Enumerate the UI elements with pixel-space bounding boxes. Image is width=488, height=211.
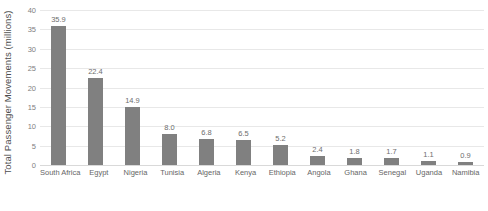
y-axis-tick-label: 20 bbox=[28, 83, 36, 92]
y-axis-title: Total Passenger Movements (millions) bbox=[0, 0, 14, 185]
y-axis-tick-label: 25 bbox=[28, 64, 36, 73]
x-axis-category-label: Egypt bbox=[80, 168, 117, 190]
bar-value-label: 1.7 bbox=[373, 147, 410, 156]
bar-slot: 8.0 bbox=[151, 10, 188, 165]
bar-value-label: 6.5 bbox=[225, 129, 262, 138]
bar[interactable] bbox=[458, 162, 474, 165]
y-axis-tick-label: 35 bbox=[28, 25, 36, 34]
bar-value-label: 1.1 bbox=[410, 150, 447, 159]
x-axis-category-label: Tunisia bbox=[154, 168, 191, 190]
bar-slot: 0.9 bbox=[447, 10, 484, 165]
x-axis-category-label: South Africa bbox=[40, 168, 80, 190]
x-axis-category-label: Angola bbox=[301, 168, 338, 190]
bar[interactable] bbox=[421, 161, 437, 165]
bar-slot: 2.4 bbox=[299, 10, 336, 165]
bar[interactable] bbox=[236, 140, 252, 165]
bar-slot: 1.8 bbox=[336, 10, 373, 165]
y-axis-tick-labels: 0510152025303540 bbox=[16, 10, 38, 165]
bar-value-label: 35.9 bbox=[40, 15, 77, 24]
bar-value-label: 5.2 bbox=[262, 134, 299, 143]
bar-slot: 1.7 bbox=[373, 10, 410, 165]
y-axis-tick-label: 40 bbox=[28, 6, 36, 15]
y-axis-tick-label: 0 bbox=[32, 161, 36, 170]
y-axis-title-text: Total Passenger Movements (millions) bbox=[2, 10, 13, 174]
bar-value-label: 14.9 bbox=[114, 96, 151, 105]
bar-slot: 6.8 bbox=[188, 10, 225, 165]
y-axis-tick-label: 5 bbox=[32, 141, 36, 150]
bar-value-label: 6.8 bbox=[188, 128, 225, 137]
bar[interactable] bbox=[51, 26, 67, 165]
bar-slot: 14.9 bbox=[114, 10, 151, 165]
x-axis-category-label: Kenya bbox=[227, 168, 264, 190]
y-axis-tick-label: 10 bbox=[28, 122, 36, 131]
x-axis-category-label: Nigeria bbox=[117, 168, 154, 190]
bar-slot: 1.1 bbox=[410, 10, 447, 165]
bar[interactable] bbox=[125, 107, 141, 165]
bar-value-label: 22.4 bbox=[77, 67, 114, 76]
x-axis-category-label: Algeria bbox=[191, 168, 228, 190]
y-axis-tick-label: 30 bbox=[28, 44, 36, 53]
bar-chart: Total Passenger Movements (millions) 051… bbox=[0, 0, 488, 211]
x-axis-category-label: Senegal bbox=[374, 168, 411, 190]
y-axis-tick-label: 15 bbox=[28, 102, 36, 111]
x-axis-baseline bbox=[40, 165, 484, 166]
bar[interactable] bbox=[162, 134, 178, 165]
bar[interactable] bbox=[347, 158, 363, 165]
x-axis-category-label: Ethiopia bbox=[264, 168, 301, 190]
bar-value-label: 8.0 bbox=[151, 123, 188, 132]
bar-slot: 35.9 bbox=[40, 10, 77, 165]
bar[interactable] bbox=[310, 156, 326, 165]
x-axis-category-label: Ghana bbox=[337, 168, 374, 190]
plot-area: 35.922.414.98.06.86.55.22.41.81.71.10.9 bbox=[40, 10, 484, 165]
x-axis-category-labels: South AfricaEgyptNigeriaTunisiaAlgeriaKe… bbox=[40, 168, 484, 190]
bar-slot: 5.2 bbox=[262, 10, 299, 165]
bar[interactable] bbox=[88, 78, 104, 165]
bar-slot: 6.5 bbox=[225, 10, 262, 165]
bar-value-label: 1.8 bbox=[336, 147, 373, 156]
x-axis-category-label: Namibia bbox=[447, 168, 484, 190]
bars-container: 35.922.414.98.06.86.55.22.41.81.71.10.9 bbox=[40, 10, 484, 165]
bar[interactable] bbox=[384, 158, 400, 165]
bar[interactable] bbox=[273, 145, 289, 165]
bar-value-label: 0.9 bbox=[447, 151, 484, 160]
bar-slot: 22.4 bbox=[77, 10, 114, 165]
bar-value-label: 2.4 bbox=[299, 145, 336, 154]
bar[interactable] bbox=[199, 139, 215, 165]
x-axis-category-label: Uganda bbox=[411, 168, 448, 190]
